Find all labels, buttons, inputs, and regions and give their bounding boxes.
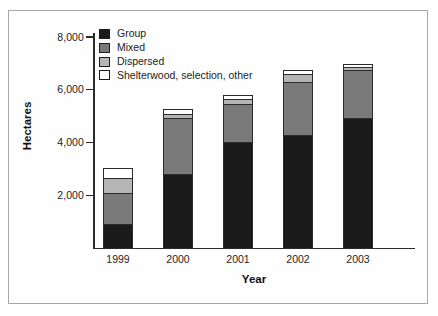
y-axis-tick-label-text: 8,000: [38, 31, 84, 43]
x-axis-tick-label-2002: 2002: [268, 253, 328, 265]
x-axis-title: Year: [93, 273, 415, 285]
y-axis-line: [93, 33, 95, 249]
legend-swatch-icon: [99, 70, 110, 80]
chart-screenshot: 2,0004,0006,0008,000 1999200020012002200…: [0, 0, 438, 316]
x-axis-tick-label-2000: 2000: [148, 253, 208, 265]
legend-item-label: Mixed: [117, 42, 145, 53]
x-axis-tick-label-2003: 2003: [328, 253, 388, 265]
y-axis-tick-label: 2,000: [34, 189, 84, 201]
y-axis-tick-label-text: 2,000: [38, 189, 84, 201]
legend-item[interactable]: Dispersed: [99, 56, 252, 68]
bar-segment-group[interactable]: [283, 135, 313, 248]
bar-segment-mixed[interactable]: [283, 82, 313, 135]
y-axis-tick-mark: [86, 36, 93, 37]
legend-item[interactable]: Mixed: [99, 42, 252, 54]
legend-item-label: Dispersed: [117, 56, 164, 67]
y-axis-tick-label: 6,000: [34, 83, 84, 95]
bar-stack: [343, 64, 373, 248]
legend-item[interactable]: Shelterwood, selection, other: [99, 70, 252, 82]
bar-stack: [223, 95, 253, 248]
legend-swatch-icon: [99, 57, 110, 67]
bar-stack: [163, 109, 193, 248]
y-axis-tick-label-text: 6,000: [38, 83, 84, 95]
x-axis-tick-label-2001: 2001: [208, 253, 268, 265]
legend-swatch-icon: [99, 29, 110, 39]
legend-item-label: Shelterwood, selection, other: [117, 70, 252, 81]
legend-swatch-icon: [99, 43, 110, 53]
bar-segment-mixed[interactable]: [163, 118, 193, 174]
chart-legend: GroupMixedDispersedShelterwood, selectio…: [99, 28, 252, 81]
y-axis-tick-mark: [86, 195, 93, 196]
bar-segment-group[interactable]: [343, 118, 373, 248]
legend-item[interactable]: Group: [99, 28, 252, 40]
y-axis-tick-mark: [86, 142, 93, 143]
y-axis-tick-label-text: 4,000: [38, 136, 84, 148]
bar-column[interactable]: [343, 30, 373, 248]
bar-stack: [283, 70, 313, 248]
legend-item-label: Group: [117, 28, 146, 39]
bar-segment-dispersed[interactable]: [103, 178, 133, 193]
bar-segment-group[interactable]: [103, 224, 133, 248]
bar-segment-dispersed[interactable]: [283, 74, 313, 82]
y-axis-tick-mark: [86, 89, 93, 90]
bar-segment-mixed[interactable]: [343, 70, 373, 118]
y-axis-title: Hectares: [21, 81, 33, 171]
bar-segment-mixed[interactable]: [103, 193, 133, 224]
bar-column[interactable]: [283, 30, 313, 248]
y-axis-tick-label: 4,000: [34, 136, 84, 148]
bar-segment-shelterwood[interactable]: [103, 168, 133, 178]
bar-stack: [103, 168, 133, 248]
bar-segment-group[interactable]: [223, 142, 253, 248]
x-axis-tick-label-1999: 1999: [88, 253, 148, 265]
bar-segment-mixed[interactable]: [223, 104, 253, 142]
y-axis-tick-label: 8,000: [34, 31, 84, 43]
bar-segment-group[interactable]: [163, 174, 193, 248]
